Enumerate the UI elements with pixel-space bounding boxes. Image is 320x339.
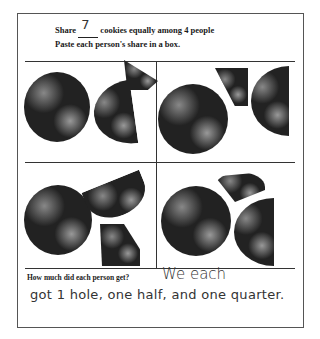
- whole-cookie: [24, 72, 90, 142]
- handwritten-answer-line-1: We each: [162, 265, 226, 283]
- prompt-line-1: Share 7 cookies equally among 4 people: [55, 24, 214, 38]
- whole-cookie: [158, 84, 228, 154]
- number-blank: 7: [78, 24, 98, 38]
- question-label: How much did each person get?: [27, 273, 129, 282]
- prompt-suffix: cookies equally among 4 people: [100, 25, 214, 35]
- prompt-line-2: Paste each person's share in a box.: [55, 38, 214, 51]
- grid-top-line: [25, 61, 295, 62]
- grid-vertical-divider: [156, 61, 157, 268]
- handwritten-answer-line-2: got 1 hole, one half, and one quarter.: [30, 287, 284, 302]
- whole-cookie: [161, 186, 231, 256]
- prompt-prefix: Share: [55, 25, 76, 35]
- worksheet-prompt: Share 7 cookies equally among 4 people P…: [55, 24, 214, 51]
- grid-bottom-line: [25, 268, 295, 269]
- grid-middle-line: [25, 162, 295, 163]
- handwritten-number: 7: [81, 18, 89, 31]
